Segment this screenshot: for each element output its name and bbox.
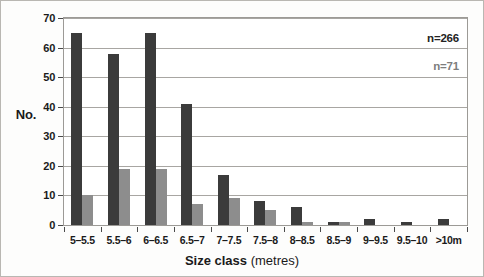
bar	[364, 219, 375, 225]
x-axis-tick-mark	[320, 227, 321, 232]
x-axis-title: Size class (metres)	[1, 253, 483, 268]
annotation-count-gray: n=71	[433, 60, 459, 72]
bar	[192, 204, 203, 225]
bar	[254, 201, 265, 225]
bar-group	[64, 18, 101, 225]
x-axis-tick-mark	[430, 227, 431, 232]
x-axis-tick-mark	[247, 227, 248, 232]
x-axis-tick-mark	[394, 227, 395, 232]
x-axis-tick-mark	[284, 227, 285, 232]
x-axis-tick-mark	[101, 227, 102, 232]
y-axis-tick-label: 0	[23, 219, 55, 231]
bar	[156, 169, 167, 225]
x-axis-tick-mark	[64, 227, 65, 232]
x-axis-tick-label: >10m	[436, 234, 462, 246]
y-axis-tick-label: 20	[23, 160, 55, 172]
bar-group	[247, 18, 284, 225]
bar	[218, 175, 229, 225]
bar	[119, 169, 130, 225]
bar-group	[174, 18, 211, 225]
x-axis-tick-label: 9–9.5	[363, 234, 388, 246]
bar	[438, 219, 449, 225]
bar	[401, 222, 412, 225]
x-axis-tick-label: 8–8.5	[290, 234, 315, 246]
bar	[339, 222, 350, 225]
x-axis-tick-label: 5–5.5	[70, 234, 95, 246]
y-axis-tick-label: 30	[23, 130, 55, 142]
bar	[265, 210, 276, 225]
x-axis-tick-label: 8.5–9	[326, 234, 351, 246]
bar-group	[394, 18, 431, 225]
x-axis-tick-label: 6–6.5	[143, 234, 168, 246]
bar-group	[101, 18, 138, 225]
x-axis-tick-mark	[174, 227, 175, 232]
x-axis-tick-mark	[137, 227, 138, 232]
x-axis-tick-mark	[467, 227, 468, 232]
x-axis-tick-label: 7.5–8	[253, 234, 278, 246]
x-axis-tick-label: 7–7.5	[216, 234, 241, 246]
bar-group	[211, 18, 248, 225]
bar-series-layer	[64, 18, 467, 225]
x-axis-title-bold: Size class	[185, 253, 247, 268]
x-axis-tick-mark	[357, 227, 358, 232]
bar-group	[320, 18, 357, 225]
x-axis-title-units: (metres)	[251, 253, 299, 268]
bar	[108, 54, 119, 226]
x-axis-tick-label: 5.5–6	[107, 234, 132, 246]
bar	[302, 222, 313, 225]
y-axis-tick-label: 70	[23, 12, 55, 24]
x-axis-tick-label: 6.5–7	[180, 234, 205, 246]
bar-group	[137, 18, 174, 225]
bar-group	[357, 18, 394, 225]
x-axis-tick-mark	[211, 227, 212, 232]
bar-group	[284, 18, 321, 225]
x-axis-tick-label: 9.5–10	[397, 234, 427, 246]
bar-group	[430, 18, 467, 225]
y-axis-tick-label: 10	[23, 189, 55, 201]
bar	[71, 33, 82, 225]
y-axis-tick-label: 60	[23, 42, 55, 54]
figure-container: No. 010203040506070 5–5.55.5–66–6.56.5–7…	[0, 0, 484, 277]
bar	[291, 207, 302, 225]
y-axis-tick-label: 40	[23, 101, 55, 113]
y-axis-tick-label: 50	[23, 71, 55, 83]
bar	[82, 195, 93, 225]
bar	[181, 104, 192, 225]
plot-area	[63, 17, 468, 226]
bar	[145, 33, 156, 225]
annotation-count-dark: n=266	[427, 32, 459, 44]
bar	[229, 198, 240, 225]
bar	[328, 222, 339, 225]
